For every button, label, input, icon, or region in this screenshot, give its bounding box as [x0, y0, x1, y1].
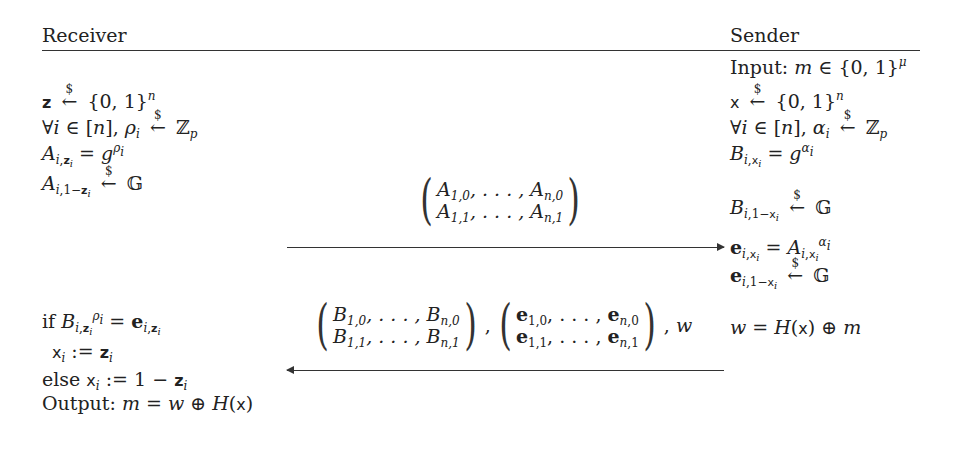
sender-step-sample-x: x $← {0, 1}n [730, 90, 844, 114]
sender-step-w: w = H(x) ⊕ m [730, 316, 861, 340]
sender-step-sample-alpha: ∀i ∈ [n], αi $← ℤp [730, 116, 887, 138]
receiver-output: Output: m = w ⊕ H(x) [42, 392, 253, 416]
sender-step-e-def: ei,xi = Ai,xiαi [730, 236, 831, 258]
message-A-matrix: ( A1,0, . . . , An,0 A1,1, . . . , An,1 … [416, 173, 584, 227]
sender-step-e-random: ei,1−xi $← 𝔾 [730, 264, 830, 286]
arrow-sender-to-receiver [287, 370, 724, 371]
sender-step-B-def: Bi,xi = gαi [730, 142, 813, 164]
message-B-e-w: ( B1,0, . . . , Bn,0 B1,1, . . . , Bn,1 … [312, 298, 696, 352]
receiver-step-sample-rho: ∀i ∈ [n], ρi $← ℤp [42, 116, 198, 138]
receiver-header: Receiver [42, 24, 127, 46]
sender-input: Input: m ∈ {0, 1}μ [730, 56, 907, 78]
receiver-step-assign: xi := zi [52, 340, 113, 364]
header-rule [42, 50, 920, 51]
receiver-step-A-random: Ai,1−zi $← 𝔾 [42, 172, 143, 194]
receiver-step-else: else xi := 1 − zi [42, 368, 187, 392]
receiver-step-sample-z: z $← {0, 1}n [42, 90, 156, 114]
sender-step-B-random: Bi,1−xi $← 𝔾 [730, 196, 831, 218]
receiver-step-if: if Bi,ziρi = ei,zi [42, 310, 161, 332]
sender-header: Sender [730, 24, 799, 46]
arrow-receiver-to-sender [287, 247, 724, 248]
